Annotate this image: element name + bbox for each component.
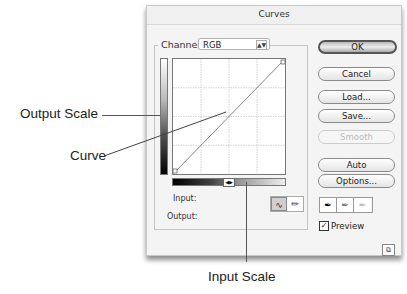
annotation-input-scale-line [246, 182, 247, 262]
annotation-input-scale: Input Scale [208, 269, 276, 284]
annotation-curve-line [0, 0, 407, 294]
